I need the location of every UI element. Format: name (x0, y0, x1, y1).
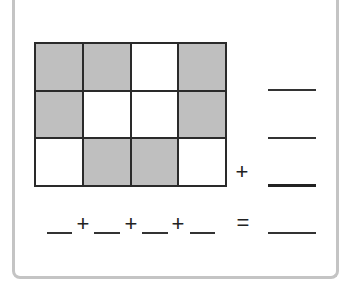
equals-sign: = (233, 212, 253, 234)
grid-cell-1-3-unshaded (131, 43, 179, 91)
grid-cell-1-2-shaded (83, 43, 131, 91)
grid-cell-2-4-shaded (178, 91, 226, 139)
grid-cell-3-2-shaded (83, 138, 131, 186)
total-blank[interactable] (268, 232, 316, 234)
grid-cell-1-4-shaded (178, 43, 226, 91)
column-sum-blank-4[interactable] (190, 232, 215, 234)
grid-cell-3-4-unshaded (178, 138, 226, 186)
plus-sign: + (232, 161, 252, 183)
grid-cell-3-1-unshaded (35, 138, 83, 186)
row-3-sum-blank[interactable] (268, 184, 316, 187)
row-2-sum-blank[interactable] (268, 137, 316, 139)
column-sum-blank-2[interactable] (94, 232, 120, 234)
plus-sign: + (168, 213, 188, 235)
grid-cell-2-3-unshaded (131, 91, 179, 139)
plus-sign: + (121, 213, 141, 235)
grid-cell-1-1-shaded (35, 43, 83, 91)
grid-cell-2-1-shaded (35, 91, 83, 139)
shaded-grid (34, 42, 227, 187)
plus-sign: + (73, 213, 93, 235)
grid-cell-2-2-unshaded (83, 91, 131, 139)
column-sum-blank-3[interactable] (142, 232, 168, 234)
column-sum-blank-1[interactable] (47, 232, 72, 234)
grid-cell-3-3-shaded (131, 138, 179, 186)
row-1-sum-blank[interactable] (268, 89, 316, 91)
